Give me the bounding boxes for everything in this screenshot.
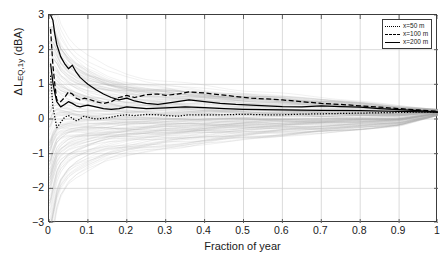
legend-line-swatch — [385, 34, 400, 35]
x-tick-label: 0 — [45, 225, 51, 236]
legend[interactable]: x=50 mx=100 mx=200 m — [382, 19, 432, 49]
y-tick-label: −1 — [32, 147, 44, 158]
y-axis-label: ΔLEQ,1y (dBA) — [12, 0, 25, 127]
y-axis-symbol: L — [12, 81, 24, 87]
x-tick-label: 0.3 — [157, 225, 172, 236]
y-tick-label: −2 — [32, 182, 44, 193]
x-axis-label: Fraction of year — [48, 240, 437, 252]
legend-line-swatch — [385, 26, 400, 27]
legend-label: x=100 m — [403, 30, 428, 38]
x-tick-label: 0.5 — [235, 225, 250, 236]
y-tick-label: 1 — [38, 78, 44, 89]
y-tick-label: 0 — [38, 113, 44, 124]
legend-item[interactable]: x=100 m — [385, 30, 428, 38]
y-axis-delta: Δ — [12, 88, 24, 95]
figure: −3−2−10123 00.10.20.30.40.50.60.70.80.91… — [0, 0, 448, 263]
x-tick-label: 1 — [434, 225, 440, 236]
y-tick-label: 2 — [38, 43, 44, 54]
x-tick-label: 0.4 — [196, 225, 211, 236]
legend-item[interactable]: x=200 m — [385, 38, 428, 46]
plot-canvas — [49, 15, 438, 223]
x-tick-label: 0.7 — [313, 225, 328, 236]
x-tick-label: 0.2 — [118, 225, 133, 236]
legend-line-swatch — [385, 42, 400, 43]
y-axis-subscript: EQ,1y — [16, 59, 25, 81]
plot-area — [48, 14, 437, 222]
legend-item[interactable]: x=50 m — [385, 22, 428, 30]
legend-label: x=200 m — [403, 38, 428, 46]
y-tick-label: 3 — [38, 9, 44, 20]
y-axis-units: (dBA) — [12, 28, 24, 56]
y-tick-label: −3 — [32, 217, 44, 228]
x-tick-label: 0.1 — [80, 225, 95, 236]
legend-label: x=50 m — [403, 22, 425, 30]
x-tick-label: 0.9 — [391, 225, 406, 236]
x-axis-ticks: 00.10.20.30.40.50.60.70.80.91 — [48, 225, 437, 239]
x-tick-label: 0.6 — [274, 225, 289, 236]
x-tick-label: 0.8 — [352, 225, 367, 236]
